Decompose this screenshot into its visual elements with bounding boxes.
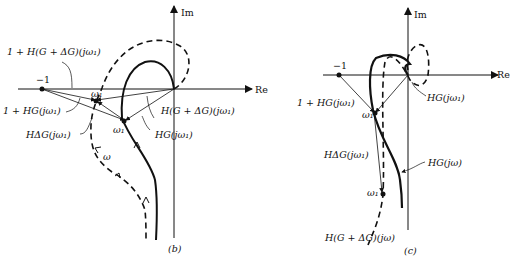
- label-omega1-top: ω₁: [91, 89, 103, 99]
- panel-c-minus-one: −1: [333, 61, 347, 71]
- vector-h-g-dg: [97, 89, 174, 100]
- vector-h-dg: [98, 102, 124, 120]
- nyquist-diagrams: [0, 0, 515, 259]
- panel-b-im-label: Im: [181, 8, 194, 18]
- panel-b-minus-one: −1: [36, 75, 50, 85]
- label-h-dg: HΔG(jω₁): [26, 130, 71, 140]
- label-omega: ω: [103, 152, 111, 162]
- label-1-plus-hg: 1 + HG(jω₁): [3, 106, 61, 116]
- label-omega1-bottom: ω₁: [113, 125, 125, 135]
- panel-b: [18, 6, 252, 240]
- panel-c-im-label: Im: [414, 10, 427, 20]
- panel-c: [323, 8, 498, 245]
- label-h-dg: HΔG(jω₁): [324, 150, 369, 160]
- label-hg: HG(jω₁): [155, 130, 193, 140]
- label-1-plus-h-g-dg: 1 + H(G + ΔG)(jω₁): [7, 47, 101, 57]
- panel-c-caption: (c): [404, 246, 417, 256]
- omega1-point-perturbed: [94, 99, 99, 104]
- label-hg-w1: HG(jω₁): [427, 93, 465, 103]
- nominal-locus: [122, 61, 174, 240]
- panel-b-caption: (b): [168, 244, 182, 254]
- panel-b-re-label: Re: [255, 85, 268, 95]
- panel-c-re-label: Re: [497, 70, 510, 80]
- label-h-g-dg-w: H(G + ΔG)(jω): [325, 233, 395, 243]
- omega1-point-nominal: [122, 119, 127, 124]
- label-h-g-dg: H(G + ΔG)(jω₁): [161, 106, 235, 116]
- omega1-point-perturbed: [381, 192, 386, 197]
- label-omega1-top: ω₁: [362, 110, 374, 120]
- label-omega1-bottom: ω₁: [367, 188, 379, 198]
- label-hg-w: HG(jω): [428, 158, 462, 168]
- vector-1-plus-h-g-dg: [42, 89, 95, 100]
- label-1-plus-hg: 1 + HG(jω₁): [297, 98, 355, 108]
- vector-hg: [376, 75, 408, 112]
